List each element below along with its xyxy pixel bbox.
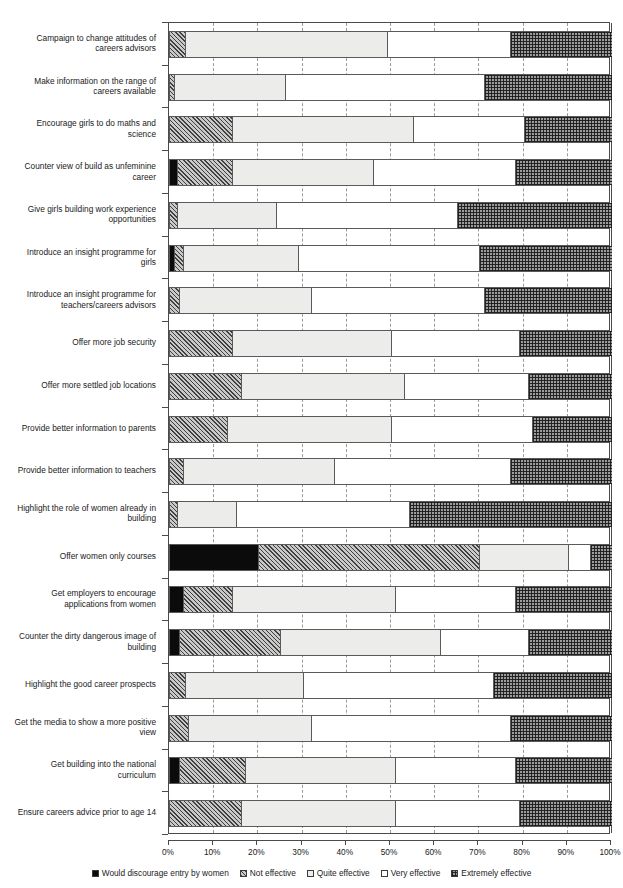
bar-segment bbox=[395, 587, 514, 612]
bar-segment bbox=[183, 459, 333, 484]
y-axis-label: Offer women only courses bbox=[0, 551, 156, 562]
bar-segment bbox=[170, 502, 177, 527]
y-axis-label-line: Offer more settled job locations bbox=[0, 380, 156, 391]
x-axis-tick-label: 50% bbox=[381, 847, 398, 857]
bar-segment bbox=[170, 716, 188, 741]
bar-segment bbox=[177, 502, 237, 527]
y-axis-label-line: Counter view of build as unfeminine bbox=[0, 161, 156, 172]
bar-segment bbox=[183, 246, 298, 271]
y-axis-label: Introduce an insight programme forgirls bbox=[0, 247, 156, 268]
y-axis-label-line: Introduce an insight programme for bbox=[0, 247, 156, 258]
x-axis-tick bbox=[477, 840, 478, 845]
y-axis-label-line: Introduce an insight programme for bbox=[0, 289, 156, 300]
y-axis-label: Ensure careers advice prior to age 14 bbox=[0, 807, 156, 818]
y-axis-label: Give girls building work experienceoppor… bbox=[0, 204, 156, 225]
bar-row bbox=[169, 800, 609, 827]
bar-segment bbox=[241, 801, 396, 826]
bar-segment bbox=[174, 246, 183, 271]
bar-segment bbox=[232, 117, 413, 142]
bar-segment bbox=[395, 758, 514, 783]
bar-segment bbox=[373, 160, 514, 185]
bar-row bbox=[169, 116, 609, 143]
bar-segment bbox=[170, 203, 177, 228]
legend-item: Extremely effective bbox=[451, 868, 531, 878]
bar-segment bbox=[236, 502, 408, 527]
y-axis-label: Offer more settled job locations bbox=[0, 380, 156, 391]
stacked-bar bbox=[169, 373, 609, 400]
stacked-bar bbox=[169, 629, 609, 656]
y-axis-label: Highlight the good career prospects bbox=[0, 679, 156, 690]
y-axis-tick bbox=[162, 236, 168, 237]
bar-segment bbox=[528, 630, 612, 655]
bar-row bbox=[169, 159, 609, 186]
bar-row bbox=[169, 458, 609, 485]
y-axis-label: Provide better information to parents bbox=[0, 423, 156, 434]
y-axis-label-line: Get the media to show a more positive bbox=[0, 717, 156, 728]
y-axis-label: Make information on the range ofcareers … bbox=[0, 76, 156, 97]
y-axis-label-line: career bbox=[0, 172, 156, 183]
stacked-bar bbox=[169, 416, 609, 443]
y-axis-label-line: building bbox=[0, 642, 156, 653]
bar-segment bbox=[484, 288, 612, 313]
bar-row bbox=[169, 330, 609, 357]
bar-segment bbox=[170, 374, 241, 399]
x-axis-tick bbox=[256, 840, 257, 845]
bar-segment bbox=[391, 331, 519, 356]
x-axis-tick-label: 40% bbox=[336, 847, 353, 857]
bar-segment bbox=[391, 417, 532, 442]
bar-segment bbox=[170, 673, 185, 698]
bar-segment bbox=[245, 758, 395, 783]
bar-segment bbox=[387, 32, 511, 57]
y-axis-label-line: Highlight the role of women already in bbox=[0, 503, 156, 514]
white-swatch bbox=[381, 870, 388, 877]
bar-row bbox=[169, 245, 609, 272]
bar-row bbox=[169, 373, 609, 400]
x-axis-tick bbox=[433, 840, 434, 845]
bar-segment bbox=[413, 117, 524, 142]
bar-segment bbox=[334, 459, 511, 484]
bar-segment bbox=[179, 630, 281, 655]
x-axis-tick-label: 90% bbox=[557, 847, 574, 857]
bar-segment bbox=[409, 502, 612, 527]
bar-segment bbox=[484, 75, 612, 100]
x-axis-tick bbox=[212, 840, 213, 845]
stacked-bar bbox=[169, 159, 609, 186]
stacked-bar bbox=[169, 330, 609, 357]
y-axis-label-line: Ensure careers advice prior to age 14 bbox=[0, 807, 156, 818]
bar-row bbox=[169, 74, 609, 101]
bar-segment bbox=[170, 801, 241, 826]
bar-segment bbox=[303, 673, 493, 698]
y-axis-tick bbox=[162, 364, 168, 365]
stacked-bar bbox=[169, 31, 609, 58]
bar-segment bbox=[179, 758, 245, 783]
x-axis-tick bbox=[522, 840, 523, 845]
x-axis-tick bbox=[610, 840, 611, 845]
y-axis-label-line: Make information on the range of bbox=[0, 76, 156, 87]
y-axis-label: Highlight the role of women already inbu… bbox=[0, 503, 156, 524]
solid-black-swatch bbox=[92, 870, 99, 877]
stacked-bar bbox=[169, 800, 609, 827]
y-axis-tick bbox=[162, 578, 168, 579]
y-axis-tick bbox=[162, 193, 168, 194]
stacked-bar bbox=[169, 586, 609, 613]
bar-segment bbox=[298, 246, 479, 271]
y-axis-tick bbox=[162, 22, 168, 23]
x-axis-tick-label: 60% bbox=[425, 847, 442, 857]
y-axis-label: Encourage girls to do maths andscience bbox=[0, 118, 156, 139]
bar-segment bbox=[188, 716, 312, 741]
bar-segment bbox=[311, 288, 483, 313]
bar-segment bbox=[232, 160, 373, 185]
y-axis-label-line: Provide better information to parents bbox=[0, 423, 156, 434]
y-axis-label: Get building into the nationalcurriculum bbox=[0, 759, 156, 780]
bar-segment bbox=[170, 331, 232, 356]
stacked-bar bbox=[169, 501, 609, 528]
x-axis-tick bbox=[566, 840, 567, 845]
bar-segment bbox=[170, 758, 179, 783]
y-axis-label-line: view bbox=[0, 727, 156, 738]
y-axis-tick bbox=[162, 492, 168, 493]
y-axis-label-line: Get building into the national bbox=[0, 759, 156, 770]
bar-segment bbox=[590, 545, 612, 570]
y-axis-tick bbox=[162, 407, 168, 408]
y-axis-label-line: careers advisors bbox=[0, 43, 156, 54]
x-axis-tick bbox=[345, 840, 346, 845]
